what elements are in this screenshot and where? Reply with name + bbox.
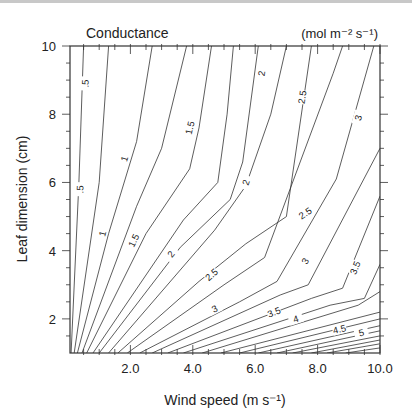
contour-label: 1.5 bbox=[183, 120, 197, 135]
y-tick-label: 2 bbox=[49, 312, 56, 327]
contour-line bbox=[109, 46, 287, 353]
y-tick-label: 4 bbox=[49, 244, 56, 259]
x-tick-label: 4.0 bbox=[184, 361, 202, 376]
contour-line bbox=[168, 196, 380, 353]
contour-label: .5 bbox=[74, 185, 85, 193]
y-tick-label: 10 bbox=[42, 39, 56, 54]
plot-frame bbox=[70, 46, 380, 353]
chart-title: Conductance bbox=[86, 25, 169, 41]
contour-line bbox=[293, 336, 380, 353]
contour-lines bbox=[71, 46, 380, 353]
contour-line bbox=[99, 46, 258, 353]
y-tick-label: 8 bbox=[49, 107, 56, 122]
contour-label: 3.5 bbox=[266, 305, 282, 320]
x-tick-label: 8.0 bbox=[309, 361, 327, 376]
contour-line bbox=[127, 46, 342, 353]
contour-line bbox=[74, 46, 108, 353]
contour-label: 2.5 bbox=[203, 266, 220, 283]
contour-line bbox=[311, 340, 380, 353]
units-label: (mol m⁻² s⁻¹) bbox=[301, 26, 378, 41]
x-tick-label: 10.0 bbox=[367, 361, 392, 376]
contour-line bbox=[77, 46, 152, 353]
y-axis-tick-labels: 246810 bbox=[42, 39, 56, 327]
contour-label: 1.5 bbox=[126, 232, 142, 249]
y-tick-label: 6 bbox=[49, 175, 56, 190]
contour-label: .5 bbox=[80, 79, 91, 87]
contour-line bbox=[140, 46, 374, 353]
contour-label: 2.5 bbox=[297, 205, 314, 222]
y-axis-label: Leaf dimension (cm) bbox=[14, 136, 30, 263]
y-axis-ticks bbox=[62, 46, 388, 336]
x-axis-label: Wind speed (m s⁻¹) bbox=[164, 392, 285, 408]
contour-line bbox=[71, 46, 84, 353]
x-tick-label: 6.0 bbox=[246, 361, 264, 376]
x-axis-ticks bbox=[84, 44, 380, 355]
x-tick-label: 2.0 bbox=[121, 361, 139, 376]
contour-line bbox=[152, 148, 380, 353]
contour-chart: .5.5111.51.52222.52.52.53333.53.544.55 2… bbox=[0, 0, 412, 420]
x-axis-tick-labels: 2.04.06.08.010.0 bbox=[121, 361, 392, 376]
contour-label: 3.5 bbox=[347, 260, 362, 276]
contour-label: 2.5 bbox=[296, 90, 309, 105]
